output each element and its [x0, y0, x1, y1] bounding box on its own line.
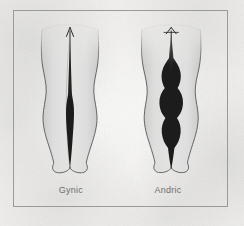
leg-figures-illustration — [0, 0, 244, 226]
figure-root: Gynic Andric — [0, 0, 244, 226]
gynic-label: Gynic — [38, 185, 104, 195]
andric-label: Andric — [133, 185, 203, 195]
